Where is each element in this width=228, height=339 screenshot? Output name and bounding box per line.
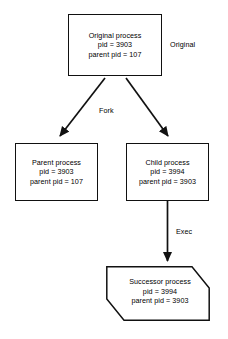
node-child-process-line-1: Child process: [139, 158, 196, 168]
node-child-process-line-2: pid = 3994: [139, 167, 196, 177]
node-successor-process-text: Successor process pid = 3994 parent pid …: [129, 277, 191, 306]
node-child-process-text: Child process pid = 3994 parent pid = 39…: [139, 158, 196, 187]
process-fork-diagram: Original process pid = 3903 parent pid =…: [0, 0, 228, 339]
node-successor-process-line-3: parent pid = 3903: [129, 296, 191, 306]
node-parent-process-line-1: Parent process: [30, 158, 83, 168]
label-exec: Exec: [176, 227, 192, 236]
node-successor-process-line-1: Successor process: [129, 277, 191, 287]
node-parent-process-line-3: parent pid = 107: [30, 177, 83, 187]
edge-fork-to-child: [126, 78, 168, 136]
node-successor-process: Successor process pid = 3994 parent pid …: [106, 266, 210, 321]
node-original-process-line-1: Original process: [89, 31, 142, 41]
node-successor-process-line-2: pid = 3994: [129, 287, 191, 297]
node-original-process-text: Original process pid = 3903 parent pid =…: [89, 31, 142, 60]
node-child-process-line-3: parent pid = 3903: [139, 177, 196, 187]
node-original-process-line-2: pid = 3903: [89, 40, 142, 50]
label-fork: Fork: [99, 106, 114, 115]
node-original-process: Original process pid = 3903 parent pid =…: [68, 14, 162, 76]
node-parent-process: Parent process pid = 3903 parent pid = 1…: [15, 143, 98, 201]
label-original: Original: [170, 40, 195, 49]
node-parent-process-line-2: pid = 3903: [30, 167, 83, 177]
node-parent-process-text: Parent process pid = 3903 parent pid = 1…: [30, 158, 83, 187]
node-child-process: Child process pid = 3994 parent pid = 39…: [126, 143, 209, 201]
node-original-process-line-3: parent pid = 107: [89, 50, 142, 60]
